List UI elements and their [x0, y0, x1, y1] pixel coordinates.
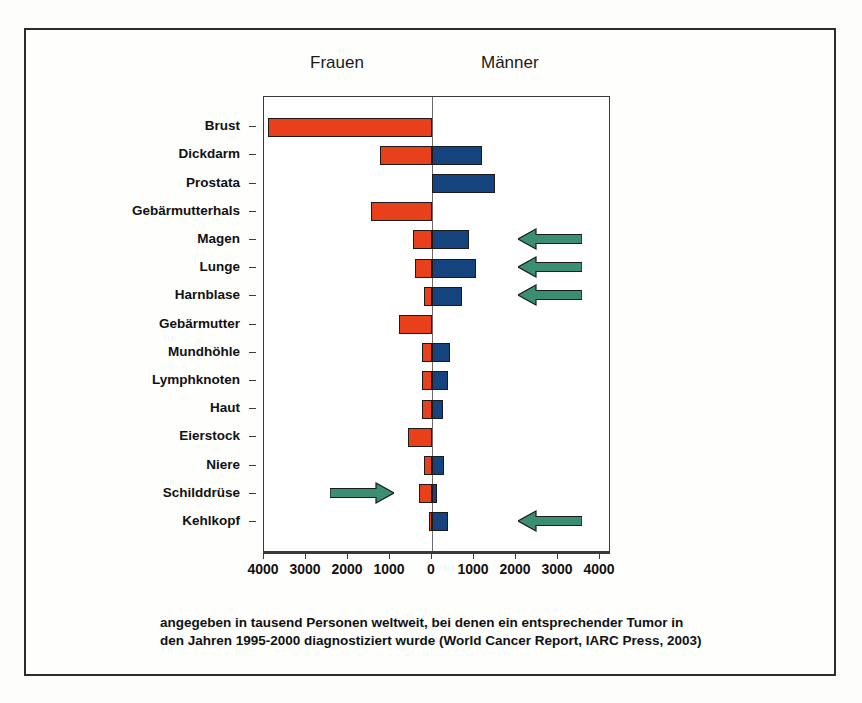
category-tick	[249, 436, 256, 437]
bar-frauen	[422, 371, 433, 390]
arrow-lunge-icon	[518, 256, 582, 278]
bar-frauen	[408, 428, 432, 447]
bar-frauen	[399, 315, 432, 334]
category-tick	[249, 352, 256, 353]
bar-maenner	[432, 146, 482, 165]
category-tick	[249, 211, 256, 212]
category-label: Magen	[197, 232, 240, 246]
category-label: Harnblase	[175, 288, 240, 302]
category-tick	[249, 324, 256, 325]
chart-page: Frauen Männer BrustDickdarmProstataGebär…	[0, 0, 862, 703]
bar-frauen	[380, 146, 433, 165]
bar-maenner	[432, 174, 495, 193]
category-label: Prostata	[186, 176, 240, 190]
bar-frauen	[268, 118, 432, 137]
bar-maenner	[432, 287, 462, 306]
category-tick	[249, 267, 256, 268]
category-label: Brust	[205, 119, 240, 133]
bar-maenner	[432, 230, 469, 249]
bar-frauen	[424, 456, 432, 475]
category-label: Schilddrüse	[163, 486, 240, 500]
value-axis-tick-label: 4000	[247, 561, 278, 577]
bar-frauen	[415, 259, 432, 278]
category-label: Niere	[206, 458, 240, 472]
category-tick	[249, 380, 256, 381]
value-axis-tick-label: 2000	[499, 561, 530, 577]
category-label: Mundhöhle	[168, 345, 240, 359]
bar-maenner	[432, 456, 444, 475]
bar-frauen	[371, 202, 432, 221]
value-axis-tick	[515, 552, 516, 559]
category-tick	[249, 183, 256, 184]
bar-maenner	[432, 484, 437, 503]
arrow-schilddruese-icon	[330, 482, 394, 504]
category-label: Eierstock	[179, 429, 240, 443]
category-tick	[249, 521, 256, 522]
category-label: Kehlkopf	[182, 514, 240, 528]
category-axis: BrustDickdarmProstataGebärmutterhalsMage…	[0, 96, 256, 552]
bar-maenner	[432, 400, 443, 419]
value-axis-tick	[473, 552, 474, 559]
plot-area	[263, 96, 610, 552]
bar-frauen	[422, 400, 432, 419]
category-tick	[249, 126, 256, 127]
value-axis-tick-label: 1000	[373, 561, 404, 577]
arrow-kehlkopf-icon	[518, 510, 582, 532]
category-label: Lymphknoten	[152, 373, 240, 387]
value-axis-tick-label: 2000	[331, 561, 362, 577]
category-tick	[249, 408, 256, 409]
bar-maenner	[432, 259, 476, 278]
zero-axis-line	[432, 97, 433, 551]
value-axis-tick-label: 0	[427, 561, 435, 577]
legend-label-maenner: Männer	[481, 53, 539, 73]
value-axis-tick-label: 3000	[289, 561, 320, 577]
category-label: Dickdarm	[178, 147, 240, 161]
category-tick	[249, 493, 256, 494]
value-axis-tick	[347, 552, 348, 559]
bar-maenner	[432, 512, 448, 531]
value-axis-tick-label: 3000	[541, 561, 572, 577]
value-axis-tick	[431, 552, 432, 559]
category-label: Lunge	[200, 260, 241, 274]
value-axis-tick	[263, 552, 264, 559]
arrow-magen-icon	[518, 228, 582, 250]
value-axis-tick-label: 1000	[457, 561, 488, 577]
bar-frauen	[424, 287, 432, 306]
caption-line-2: den Jahren 1995-2000 diagnostiziert wurd…	[160, 632, 760, 650]
bar-frauen	[419, 484, 432, 503]
bar-maenner	[432, 343, 450, 362]
figure-caption: angegeben in tausend Personen weltweit, …	[160, 614, 760, 650]
arrow-harnblase-icon	[518, 284, 582, 306]
category-label: Haut	[210, 401, 240, 415]
value-axis-tick	[557, 552, 558, 559]
value-axis-tick	[599, 552, 600, 559]
caption-line-1: angegeben in tausend Personen weltweit, …	[160, 614, 760, 632]
category-tick	[249, 295, 256, 296]
value-axis-tick	[389, 552, 390, 559]
category-tick	[249, 239, 256, 240]
category-label: Gebärmutterhals	[132, 204, 240, 218]
category-label: Gebärmutter	[159, 317, 240, 331]
value-axis: 400030002000100001000200030004000	[263, 552, 610, 553]
bar-maenner	[432, 371, 448, 390]
category-tick	[249, 154, 256, 155]
bar-frauen	[413, 230, 432, 249]
bar-frauen	[422, 343, 432, 362]
value-axis-tick	[305, 552, 306, 559]
legend-label-frauen: Frauen	[310, 53, 364, 73]
value-axis-tick-label: 4000	[583, 561, 614, 577]
category-tick	[249, 465, 256, 466]
